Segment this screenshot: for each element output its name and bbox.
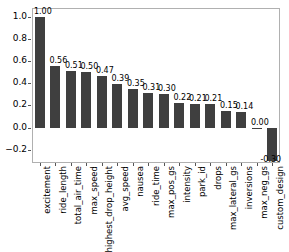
- x-axis-category-label: nausea: [136, 166, 145, 197]
- x-axis-tick-mark: [71, 163, 72, 166]
- x-axis-tick-mark: [55, 163, 56, 166]
- bar: [35, 17, 45, 128]
- bar: [112, 84, 122, 127]
- bar-value-label: 0.14: [235, 102, 253, 111]
- x-axis-category-label: ride_time: [152, 166, 161, 206]
- x-axis-category-label: intensity: [183, 166, 192, 203]
- x-axis-category-label: max_lateral_gs: [229, 166, 238, 230]
- y-axis-tick-mark: [28, 17, 31, 18]
- x-axis-tick-mark: [226, 163, 227, 166]
- x-axis-category-label: custom_design: [276, 166, 285, 230]
- x-axis-tick-mark: [257, 163, 258, 166]
- x-axis-tick-mark: [117, 163, 118, 166]
- bar: [81, 72, 91, 127]
- bar: [50, 66, 60, 128]
- y-axis-tick-mark: [28, 39, 31, 40]
- y-axis-tick-mark: [28, 105, 31, 106]
- x-axis-tick-mark: [210, 163, 211, 166]
- y-axis-tick-mark: [28, 150, 31, 151]
- bar: [252, 128, 262, 129]
- bar: [236, 112, 246, 128]
- bar: [159, 94, 169, 127]
- x-axis-category-label: ride_length: [59, 166, 68, 214]
- x-axis-tick-mark: [86, 163, 87, 166]
- x-axis-tick-mark: [102, 163, 103, 166]
- x-axis-tick-mark: [148, 163, 149, 166]
- bar: [174, 103, 184, 127]
- x-axis-tick-mark: [241, 163, 242, 166]
- x-axis-tick-mark: [133, 163, 134, 166]
- y-axis-tick-label: 0.4: [13, 77, 27, 87]
- y-axis-tick-mark: [28, 128, 31, 129]
- y-axis-tick-mark: [28, 83, 31, 84]
- x-axis-category-label: park_id: [198, 166, 207, 197]
- bar-value-label: -0.30: [260, 155, 281, 164]
- y-axis-tick-label: 0.6: [13, 55, 27, 65]
- y-axis-tick-label: 0.0: [13, 122, 27, 132]
- x-axis-category-label: drops: [214, 166, 223, 190]
- bar: [205, 104, 215, 127]
- x-axis-category-label: inversions: [245, 166, 254, 209]
- bar-value-label: 1.00: [34, 7, 52, 16]
- bar: [128, 89, 138, 128]
- bar: [221, 111, 231, 128]
- x-axis-category-label: max_speed: [90, 166, 99, 214]
- bar: [66, 71, 76, 127]
- x-axis-category-label: excitement: [43, 166, 52, 214]
- x-axis-category-label: total_air_time: [74, 166, 83, 224]
- x-axis-tick-mark: [179, 163, 180, 166]
- bar: [97, 76, 107, 128]
- x-axis-category-label: highest_drop_height: [105, 166, 114, 252]
- x-axis-category-label: max_pos_gs: [167, 166, 176, 218]
- y-axis-tick-label: 0.8: [13, 33, 27, 43]
- bar-value-label: 0.00: [251, 118, 269, 127]
- bar-value-label: 0.30: [158, 84, 176, 93]
- bar-value-label: 0.47: [96, 66, 114, 75]
- x-axis-category-label: max_neg_gs: [260, 166, 269, 219]
- x-axis-tick-mark: [195, 163, 196, 166]
- x-axis-tick-mark: [164, 163, 165, 166]
- y-axis-tick-label: −0.2: [5, 144, 27, 154]
- y-axis-tick-label: 0.2: [13, 99, 27, 109]
- bar: [190, 104, 200, 127]
- y-axis-tick-label: 1.0: [13, 11, 27, 21]
- y-axis-tick-mark: [28, 61, 31, 62]
- bar: [143, 93, 153, 127]
- x-axis-tick-mark: [40, 163, 41, 166]
- x-axis-category-label: avg_speed: [121, 166, 130, 212]
